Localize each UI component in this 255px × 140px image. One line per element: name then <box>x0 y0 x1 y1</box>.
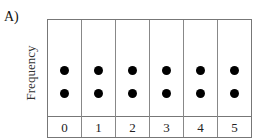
x-tick-label: 2 <box>116 116 149 137</box>
dot-area <box>218 20 251 116</box>
x-tick-label: 4 <box>184 116 217 137</box>
column-2: 2 <box>115 20 149 137</box>
dot-area <box>48 20 81 116</box>
data-dot <box>162 66 171 75</box>
data-dot <box>196 89 205 98</box>
dot-area <box>150 20 183 116</box>
data-dot <box>128 89 137 98</box>
data-dot <box>162 89 171 98</box>
x-tick-label: 3 <box>150 116 183 137</box>
data-dot <box>60 89 69 98</box>
data-dot <box>230 89 239 98</box>
data-dot <box>94 89 103 98</box>
dot-area <box>184 20 217 116</box>
column-1: 1 <box>81 20 115 137</box>
data-dot <box>94 66 103 75</box>
dot-area <box>116 20 149 116</box>
column-5: 5 <box>217 20 251 137</box>
data-dot <box>128 66 137 75</box>
data-dot <box>196 66 205 75</box>
column-0: 0 <box>48 20 81 137</box>
x-tick-label: 1 <box>82 116 115 137</box>
data-dot <box>230 66 239 75</box>
x-tick-label: 5 <box>218 116 251 137</box>
y-axis-label: Frequency <box>23 46 39 101</box>
figure-label: A) <box>4 9 19 25</box>
column-3: 3 <box>149 20 183 137</box>
column-4: 4 <box>183 20 217 137</box>
data-dot <box>60 66 69 75</box>
x-tick-label: 0 <box>48 116 81 137</box>
dot-plot: 012345 <box>47 19 252 138</box>
dot-area <box>82 20 115 116</box>
